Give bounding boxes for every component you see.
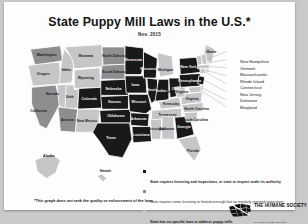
state-label-idaho: Idaho	[61, 68, 71, 72]
state-label-arizona: Arizona	[61, 118, 74, 122]
legend-label-licensing-and-inspections: State requires licensing and inspections…	[150, 180, 281, 184]
state-label-minnesota: Minnesota	[124, 58, 142, 62]
state-label-california: California	[30, 109, 46, 113]
state-label-florida: Florida	[187, 149, 199, 153]
state-label-wyoming: Wyoming	[78, 76, 94, 80]
state-label-texas: Texas	[106, 136, 116, 140]
northeast-callout-list: New Hampshire Vermont Massachusetts Rhod…	[240, 59, 298, 111]
state-label-montana: Montana	[78, 54, 93, 58]
state-label-arkansas: Arkansas	[131, 117, 147, 121]
us-choropleth-map: Washington Oregon California Nevada Idah…	[12, 40, 238, 190]
state-shape-texas	[93, 123, 132, 158]
state-shape-michigan	[157, 53, 173, 77]
state-label-illinois: Illinois	[146, 88, 157, 92]
state-shape-connecticut	[200, 69, 206, 74]
state-label-alaska: Alaska	[43, 154, 55, 158]
legend-swatch-dark-icon	[143, 170, 146, 173]
page-title: State Puppy Mill Laws in the U.S.*	[4, 15, 295, 29]
leader-line-ne-5	[206, 72, 227, 84]
state-label-newyork: New York	[181, 65, 197, 69]
state-shape-massachusetts	[198, 64, 210, 69]
humane-society-logo: THE HUMANE SOCIETY OF THE UNITED STATES	[228, 194, 299, 224]
state-shape-hawaii	[97, 174, 106, 182]
state-label-utah: Utah	[66, 95, 74, 99]
page-subtitle-date: Nov. 2015	[4, 32, 295, 37]
state-label-westvirginia: West Virginia	[166, 90, 188, 94]
state-shape-newhampshire	[201, 54, 207, 64]
state-label-nevada: Nevada	[46, 92, 59, 96]
leader-line-ne-4	[209, 71, 226, 76]
leader-line-ne-3	[209, 67, 226, 68]
legend-swatch-light-icon	[143, 210, 146, 213]
state-label-southcarolina: South Carolina	[183, 118, 208, 122]
state-label-michigan: Michigan	[158, 68, 173, 72]
state-label-colorado: Colorado	[81, 97, 97, 101]
state-label-virginia: Virginia	[185, 97, 198, 101]
ne-item-maryland: Maryland	[240, 105, 298, 112]
state-label-newmexico: New Mexico	[77, 119, 98, 123]
state-label-maine: Maine	[206, 50, 216, 54]
state-label-northdakota: North Dakota	[102, 54, 124, 58]
state-label-louisiana: Louisiana	[133, 133, 150, 137]
state-shape-maryland	[188, 86, 201, 93]
state-label-kansas: Kansas	[108, 100, 121, 104]
state-label-wisconsin: Wisconsin	[140, 67, 158, 71]
state-label-oklahoma: Oklahoma	[107, 114, 124, 118]
hsus-us-map-logo-icon	[228, 203, 252, 217]
logo-main-text: THE HUMANE SOCIETY	[254, 203, 299, 208]
state-label-pennsylvania: Pennsylvania	[178, 79, 201, 83]
state-label-washington: Washington	[36, 53, 56, 57]
state-label-northcarolina: North Carolina	[184, 107, 209, 111]
legend-label-no-specific-laws: State has no specific laws to address pu…	[150, 220, 232, 224]
infographic-card: State Puppy Mill Laws in the U.S.* Nov. …	[4, 2, 295, 210]
state-label-missouri: Missouri	[132, 100, 147, 104]
state-label-kentucky: Kentucky	[163, 102, 179, 106]
state-label-nebraska: Nebraska	[105, 87, 121, 91]
state-shape-wisconsin	[143, 52, 157, 79]
legend-row-licensing-and-inspections: State requires licensing and inspections…	[143, 169, 293, 187]
logo-wordmark: THE HUMANE SOCIETY OF THE UNITED STATES	[254, 194, 299, 224]
footnote: *This graph does not rank the quality or…	[34, 198, 153, 203]
state-label-hawaii: Hawaii	[100, 169, 111, 173]
state-shape-alaska	[35, 154, 60, 178]
leader-line-ne-8	[201, 91, 226, 107]
state-label-alabama: Alabama	[159, 127, 174, 131]
legend-swatch-mid-icon	[143, 190, 146, 193]
logo-sub-text: OF THE UNITED STATES	[254, 221, 286, 224]
state-label-georgia: Georgia	[177, 125, 190, 129]
state-label-oregon: Oregon	[37, 72, 50, 76]
state-label-iowa: Iowa	[131, 83, 139, 87]
state-shape-rhodeisland	[206, 69, 209, 72]
state-label-southdakota: South Dakota	[102, 70, 125, 74]
state-label-tennessee: Tennessee	[159, 113, 177, 117]
